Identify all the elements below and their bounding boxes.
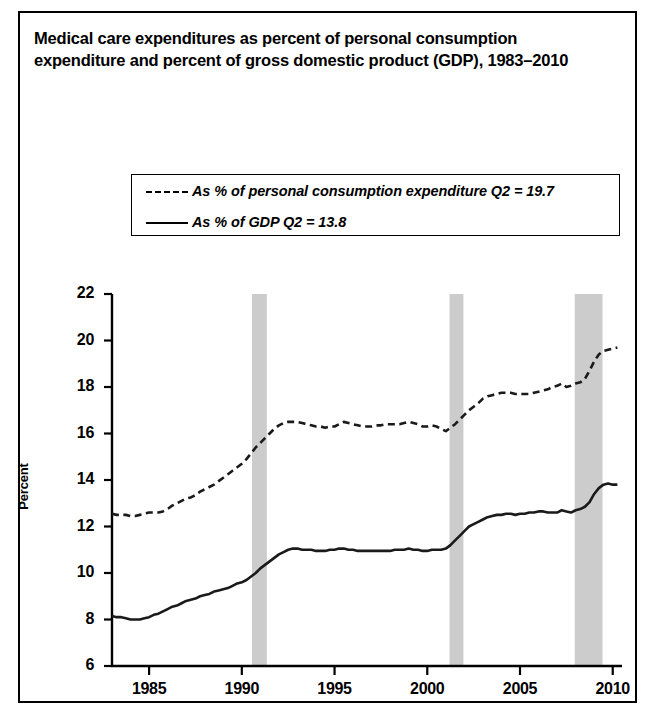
series-line-pce: [112, 347, 617, 516]
recession-band-1: [252, 294, 267, 666]
x-tick-label: 2000: [395, 680, 459, 698]
recession-band-2: [450, 294, 464, 666]
x-tick-label: 1995: [303, 680, 367, 698]
series-line-gdp: [112, 483, 617, 619]
y-tick-label: 22: [60, 284, 94, 302]
y-tick-label: 8: [60, 610, 94, 628]
x-tick-label: 1985: [117, 680, 181, 698]
x-tick-label: 2005: [488, 680, 552, 698]
axis-lines: [112, 294, 622, 666]
x-tick-label: 1990: [210, 680, 274, 698]
y-tick-label: 18: [60, 377, 94, 395]
y-tick-label: 16: [60, 424, 94, 442]
plot-area: 6810121416182022198519901995200020052010: [0, 0, 655, 714]
y-tick-label: 12: [60, 517, 94, 535]
figure-container: Medical care expenditures as percent of …: [0, 0, 655, 714]
y-tick-label: 6: [60, 656, 94, 674]
y-tick-label: 20: [60, 331, 94, 349]
x-tick-label: 2010: [581, 680, 645, 698]
recession-band-3: [575, 294, 603, 666]
chart-svg: [0, 0, 655, 714]
y-tick-label: 10: [60, 563, 94, 581]
y-tick-label: 14: [60, 470, 94, 488]
